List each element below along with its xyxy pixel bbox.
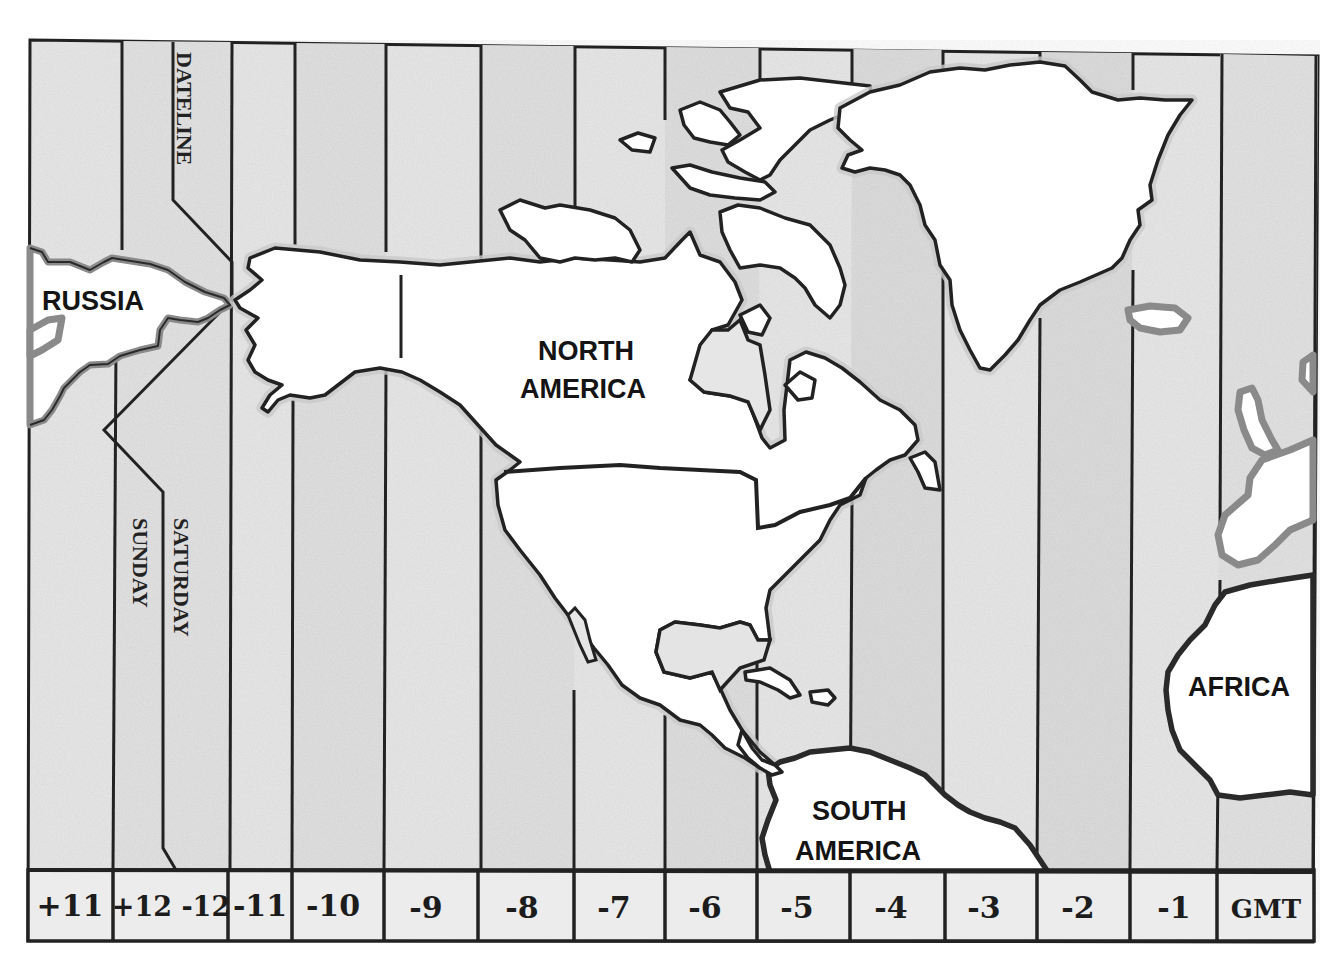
label-north-america-2: AMERICA <box>520 374 646 404</box>
zone-label: +11 <box>37 888 104 923</box>
label-north-america-1: NORTH <box>538 336 634 366</box>
time-zone-map: RUSSIA NORTH AMERICA SOUTH AMERICA AFRIC… <box>0 0 1334 965</box>
label-africa: AFRICA <box>1188 672 1290 702</box>
time-zone-strip: +11 +12 -12 -11 -10 -9 -8 -7 -6 -5 -4 -3… <box>28 870 1314 941</box>
zone-label: -9 <box>409 890 442 925</box>
landmass-iceland <box>1128 306 1188 332</box>
zone-label: -4 <box>874 890 907 925</box>
zone-label: -8 <box>505 890 538 925</box>
zone-label: GMT <box>1231 894 1302 924</box>
zone-label: -2 <box>1061 890 1094 925</box>
zone-label: -11 <box>233 888 287 923</box>
label-dateline: DATELINE <box>172 52 197 165</box>
label-sunday: SUNDAY <box>128 518 153 608</box>
zone-label: -7 <box>597 890 630 925</box>
label-russia: RUSSIA <box>42 286 144 316</box>
label-south-america-2: AMERICA <box>795 836 921 866</box>
zone-label: -10 <box>306 888 360 923</box>
zone-label: -6 <box>688 890 721 925</box>
zone-label: -3 <box>967 890 1000 925</box>
label-south-america-1: SOUTH <box>812 796 907 826</box>
label-saturday: SATURDAY <box>169 518 194 637</box>
zone-label: -1 <box>1157 890 1190 925</box>
zone-label: +12 -12 <box>112 891 230 922</box>
zone-label: -5 <box>780 890 813 925</box>
